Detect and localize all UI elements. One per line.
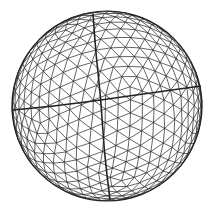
sphere-figure bbox=[0, 0, 214, 214]
wireframe-sphere bbox=[0, 0, 214, 214]
